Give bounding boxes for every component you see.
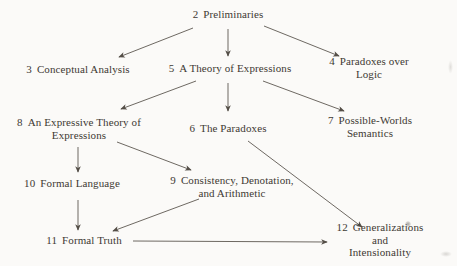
chapter-number: 3 <box>26 63 32 75</box>
print-artifact-mark <box>405 221 411 227</box>
print-artifact-smudge <box>448 60 453 74</box>
node-5-theory-of-expressions: 5A Theory of Expressions <box>169 62 292 75</box>
node-12-generalizations-intensionality: 12Generalizations and Intensionality <box>337 221 424 259</box>
chapter-number: 2 <box>193 8 199 20</box>
chapter-dependency-diagram: 2Preliminaries 3Conceptual Analysis 5A T… <box>0 0 457 266</box>
chapter-number: 11 <box>46 234 57 246</box>
chapter-number: 5 <box>169 62 175 74</box>
chapter-number: 6 <box>189 122 195 134</box>
arrow-5-to-8 <box>121 81 196 109</box>
chapter-title: Possible-Worlds Semantics <box>339 114 413 139</box>
chapter-number: 4 <box>329 55 335 67</box>
node-11-formal-truth: 11Formal Truth <box>46 234 122 247</box>
chapter-title: Consistency, Denotation, and Arithmetic <box>181 174 294 199</box>
arrow-11-to-12 <box>133 241 327 242</box>
chapter-title: A Theory of Expressions <box>179 62 291 74</box>
arrow-2-to-4 <box>264 26 339 56</box>
node-9-consistency-denotation-arithmetic: 9Consistency, Denotation, and Arithmetic <box>170 174 293 199</box>
node-6-the-paradoxes: 6The Paradoxes <box>189 122 266 135</box>
chapter-title: The Paradoxes <box>200 122 267 134</box>
chapter-title: Paradoxes over Logic <box>340 55 409 80</box>
chapter-number: 12 <box>337 221 348 233</box>
chapter-number: 10 <box>24 177 35 189</box>
print-artifact-smudge <box>440 251 452 257</box>
chapter-number: 9 <box>170 174 176 186</box>
arrow-5-to-7 <box>263 81 344 111</box>
chapter-title: Formal Truth <box>62 234 122 246</box>
node-7-possible-worlds-semantics: 7Possible-Worlds Semantics <box>327 114 414 139</box>
arrow-9-to-11 <box>113 199 199 231</box>
chapter-number: 8 <box>17 116 23 128</box>
chapter-title: Formal Language <box>40 177 120 189</box>
node-3-conceptual-analysis: 3Conceptual Analysis <box>26 63 129 76</box>
node-2-preliminaries: 2Preliminaries <box>193 8 264 21</box>
arrow-2-to-3 <box>119 28 193 57</box>
chapter-title: Conceptual Analysis <box>37 63 130 75</box>
chapter-title: An Expressive Theory of Expressions <box>28 116 141 141</box>
arrow-8-to-9 <box>117 142 191 170</box>
chapter-title: Generalizations and Intensionality <box>349 221 423 258</box>
chapter-number: 7 <box>328 114 334 126</box>
node-4-paradoxes-over-logic: 4Paradoxes over Logic <box>325 55 413 80</box>
node-10-formal-language: 10Formal Language <box>24 177 120 190</box>
node-8-expressive-theory: 8An Expressive Theory of Expressions <box>17 116 141 141</box>
chapter-title: Preliminaries <box>203 8 263 20</box>
